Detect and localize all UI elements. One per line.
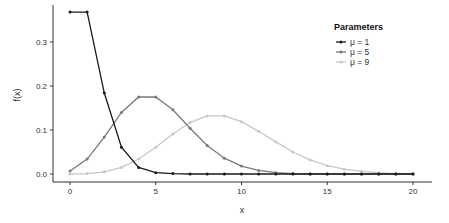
data-point [257,169,260,172]
y-tick-label: 0.3 [36,38,48,47]
data-point [309,173,312,176]
data-point [137,96,140,99]
data-point [257,130,260,133]
x-tick-label: 15 [323,187,332,196]
data-point [240,173,243,176]
data-point [223,173,226,176]
data-point [326,164,329,167]
legend-item: μ = 5 [336,47,370,57]
legend: Parameters μ = 1μ = 5μ = 9 [334,22,383,67]
data-point [86,172,89,175]
data-point [171,172,174,175]
x-axis: 05101520 [53,182,432,196]
poisson-chart: 0.00.10.20.3 05101520 f(x) x Parameters … [0,0,449,223]
data-point [309,158,312,161]
data-point [86,11,89,14]
data-point [137,166,140,169]
data-point [343,168,346,171]
data-point [69,169,72,172]
data-point [291,173,294,176]
data-point [120,146,123,149]
data-point [257,173,260,176]
data-point [412,173,415,176]
y-tick-label: 0.2 [36,82,48,91]
data-point [394,173,397,176]
data-point [137,158,140,161]
data-point [240,120,243,123]
y-axis-label: f(x) [12,89,22,102]
y-tick-label: 0.0 [36,170,48,179]
data-point [189,127,192,130]
data-point [189,173,192,176]
x-tick-label: 10 [237,187,246,196]
x-tick-label: 20 [409,187,418,196]
legend-label: μ = 9 [350,57,370,67]
data-point [171,132,174,135]
data-point [326,173,329,176]
data-point [103,136,106,139]
legend-marker-icon [340,51,343,54]
legend-marker-icon [340,61,343,64]
series-line [69,96,415,176]
data-point [154,96,157,99]
series-line [69,11,415,176]
data-point [154,171,157,174]
data-point [154,146,157,149]
x-tick-label: 5 [154,187,159,196]
legend-marker-icon [340,41,343,44]
plot-area [69,11,415,176]
y-axis: 0.00.10.20.3 [36,5,53,182]
data-point [343,173,346,176]
data-point [120,166,123,169]
data-point [103,92,106,95]
data-point [103,170,106,173]
data-point [206,114,209,117]
legend-item: μ = 9 [336,57,370,67]
data-point [240,165,243,168]
data-point [360,170,363,173]
legend-label: μ = 1 [350,37,370,47]
data-point [86,158,89,161]
data-point [171,108,174,111]
data-point [274,140,277,143]
data-point [291,151,294,154]
legend-label: μ = 5 [350,47,370,57]
x-tick-label: 0 [68,187,73,196]
data-point [360,173,363,176]
data-point [206,144,209,147]
x-axis-label: x [240,205,245,215]
data-point [223,157,226,160]
data-point [274,173,277,176]
data-point [69,11,72,14]
data-point [223,114,226,117]
data-point [189,121,192,124]
legend-title: Parameters [334,22,383,32]
data-point [377,173,380,176]
data-point [206,173,209,176]
data-point [69,173,72,176]
y-tick-label: 0.1 [36,126,48,135]
data-point [120,111,123,114]
legend-item: μ = 1 [336,37,370,47]
